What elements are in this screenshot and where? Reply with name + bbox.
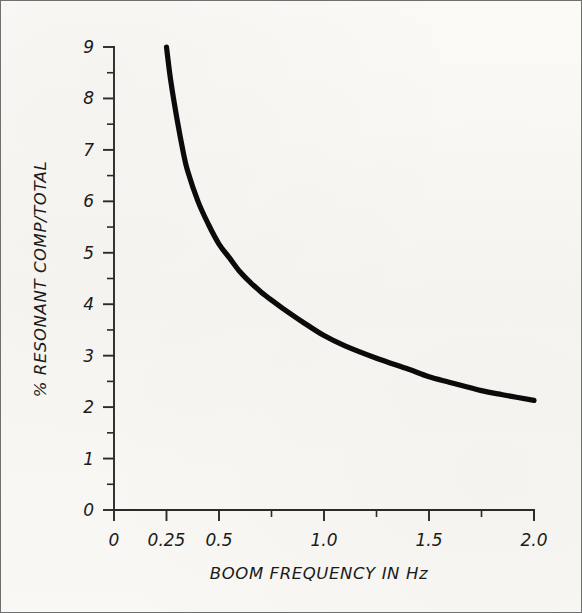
x-tick-labels-group: 00.250.51.01.52.0 bbox=[109, 530, 548, 550]
x-axis-title: BOOM FREQUENCY IN Hz bbox=[210, 564, 428, 583]
x-tick-label: 1.5 bbox=[415, 530, 442, 550]
y-tick-labels-group: 0123456789 bbox=[83, 37, 94, 520]
x-tick-label: 0 bbox=[109, 530, 120, 550]
y-tick-label: 1 bbox=[83, 449, 94, 469]
y-tick-label: 6 bbox=[83, 191, 94, 211]
y-tick-label: 9 bbox=[83, 37, 94, 57]
x-tick-label: 0.5 bbox=[205, 530, 232, 550]
x-tick-label: 1.0 bbox=[310, 530, 337, 550]
figure-page: 00.250.51.01.52.0 0123456789 BOOM FREQUE… bbox=[0, 0, 582, 613]
data-curve-line bbox=[167, 47, 535, 400]
y-tick-label: 5 bbox=[83, 243, 94, 263]
y-tick-label: 8 bbox=[83, 88, 94, 108]
y-tick-label: 0 bbox=[83, 500, 94, 520]
y-axis-title: % RESONANT COMP/TOTAL bbox=[31, 161, 50, 398]
y-tick-label: 3 bbox=[83, 346, 94, 366]
y-tick-label: 4 bbox=[83, 294, 94, 314]
data-curve-group bbox=[167, 47, 535, 400]
chart-plot: 00.250.51.01.52.0 0123456789 BOOM FREQUE… bbox=[1, 1, 582, 613]
y-tick-label: 2 bbox=[83, 397, 94, 417]
axis-ticks-group bbox=[103, 47, 534, 521]
y-tick-label: 7 bbox=[83, 140, 94, 160]
x-tick-label: 0.25 bbox=[148, 530, 186, 550]
x-tick-label: 2.0 bbox=[520, 530, 547, 550]
